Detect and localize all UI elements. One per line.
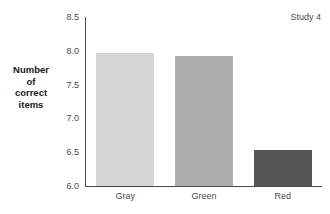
bar-red — [254, 150, 312, 186]
y-tick-label: 6.5 — [55, 147, 85, 157]
bar-gray — [96, 53, 154, 186]
y-tick-label: 7.0 — [55, 113, 85, 123]
y-axis-title-line-1: Number — [2, 64, 60, 76]
y-tick-label: 7.5 — [55, 80, 85, 90]
x-tick-label-green: Green — [165, 191, 244, 201]
y-axis-title: Number of correct items — [2, 64, 60, 110]
y-axis-title-line-3: correct — [2, 87, 60, 99]
bar-green — [175, 56, 233, 186]
y-axis-tick-labels: 6.06.57.07.58.08.5 — [55, 0, 85, 214]
y-tick-label: 8.0 — [55, 46, 85, 56]
y-axis-title-line-4: items — [2, 99, 60, 111]
x-axis-line — [85, 186, 322, 187]
study-annotation: Study 4 — [290, 12, 321, 22]
bar-chart-figure: Number of correct items 6.06.57.07.58.08… — [0, 0, 330, 214]
x-tick-label-gray: Gray — [86, 191, 165, 201]
x-tick-label-red: Red — [243, 191, 322, 201]
y-axis-title-line-2: of — [2, 76, 60, 88]
plot-area — [86, 17, 322, 186]
y-tick-label: 6.0 — [55, 181, 85, 191]
y-tick-label: 8.5 — [55, 12, 85, 22]
